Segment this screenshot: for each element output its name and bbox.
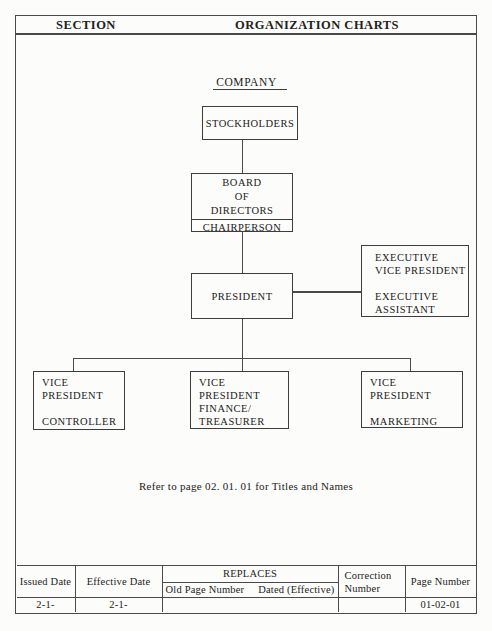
correction-label-line: Number bbox=[345, 582, 405, 595]
org-box-vp-controller: VICE PRESIDENT CONTROLLER bbox=[33, 371, 125, 430]
org-box-line: VICE PRESIDENT bbox=[375, 264, 466, 277]
org-box-line: VICE bbox=[199, 376, 286, 389]
replaces-title-row: REPLACES bbox=[163, 566, 338, 583]
correction-label-line: Correction bbox=[345, 569, 405, 582]
connector-stub-left bbox=[73, 358, 75, 372]
replaces-subheader-row: Old Page Number Dated (Effective) bbox=[163, 583, 338, 597]
org-box-line: ASSISTANT bbox=[375, 303, 466, 316]
org-box-executive-vp-assistant: EXECUTIVE VICE PRESIDENT EXECUTIVE ASSIS… bbox=[361, 245, 469, 317]
board-top-section: BOARD OF DIRECTORS bbox=[192, 174, 292, 220]
replaces-header: REPLACES Old Page Number Dated (Effectiv… bbox=[162, 566, 338, 598]
org-box-line: VICE bbox=[370, 376, 460, 389]
org-box-line bbox=[42, 402, 122, 415]
page-title: ORGANIZATION CHARTS bbox=[157, 18, 477, 33]
connector-stockholders-board bbox=[242, 140, 244, 173]
org-box-president: PRESIDENT bbox=[191, 273, 293, 319]
document-page: SECTION ORGANIZATION CHARTS COMPANY STOC… bbox=[0, 0, 492, 631]
org-box-line: CHAIRPERSON bbox=[203, 222, 281, 233]
org-box-label: PRESIDENT bbox=[211, 291, 272, 302]
org-box-line: FINANCE/ bbox=[199, 402, 286, 415]
connector-president-executive bbox=[293, 291, 361, 293]
footer-table: Issued Date Effective Date REPLACES Old … bbox=[17, 565, 476, 612]
org-box-stockholders: STOCKHOLDERS bbox=[202, 106, 298, 140]
old-page-number-label: Old Page Number bbox=[166, 584, 245, 595]
org-box-vp-finance-treasurer: VICE PRESIDENT FINANCE/ TREASURER bbox=[190, 371, 289, 429]
effective-date-label: Effective Date bbox=[87, 576, 151, 587]
org-box-line: EXECUTIVE bbox=[375, 251, 466, 264]
page-number-value: 01-02-01 bbox=[405, 598, 476, 613]
issued-date-label: Issued Date bbox=[20, 576, 71, 587]
org-box-line: EXECUTIVE bbox=[375, 290, 466, 303]
org-box-line: TREASURER bbox=[199, 415, 286, 428]
connector-board-president bbox=[242, 232, 244, 273]
issued-date-value: 2-1- bbox=[17, 598, 75, 613]
page-number-label: Page Number bbox=[411, 576, 471, 587]
correction-number-header: Correction Number bbox=[338, 566, 405, 598]
org-box-vp-marketing: VICE PRESIDENT MARKETING bbox=[361, 371, 463, 428]
issued-date-header: Issued Date bbox=[17, 566, 75, 598]
org-box-line bbox=[375, 277, 466, 290]
org-box-line: CONTROLLER bbox=[42, 415, 122, 428]
connector-stub-middle bbox=[242, 358, 244, 372]
correction-number-value bbox=[338, 598, 405, 613]
org-box-line bbox=[370, 402, 460, 415]
replaces-label: REPLACES bbox=[223, 568, 277, 579]
header-divider-line bbox=[15, 33, 476, 35]
org-box-line: MARKETING bbox=[370, 415, 460, 428]
chart-title: COMPANY bbox=[196, 76, 304, 88]
org-box-line: PRESIDENT bbox=[199, 389, 286, 402]
org-box-line: VICE bbox=[42, 376, 122, 389]
replaces-value bbox=[162, 598, 338, 613]
page-number-header: Page Number bbox=[405, 566, 476, 598]
connector-stub-right bbox=[410, 358, 412, 372]
section-label: SECTION bbox=[15, 18, 157, 33]
chart-title-text: COMPANY bbox=[213, 76, 287, 90]
org-box-line: BOARD bbox=[192, 176, 292, 190]
org-box-line: PRESIDENT bbox=[370, 389, 460, 402]
org-box-line: OF bbox=[192, 190, 292, 204]
org-box-line: PRESIDENT bbox=[42, 389, 122, 402]
connector-president-down bbox=[242, 319, 244, 358]
org-box-label: STOCKHOLDERS bbox=[206, 118, 295, 129]
reference-note: Refer to page 02. 01. 01 for Titles and … bbox=[15, 480, 477, 492]
org-box-line: DIRECTORS bbox=[192, 204, 292, 218]
effective-date-header: Effective Date bbox=[75, 566, 162, 598]
org-box-board-of-directors: BOARD OF DIRECTORS CHAIRPERSON bbox=[191, 173, 293, 232]
dated-effective-label: Dated (Effective) bbox=[258, 584, 334, 595]
effective-date-value: 2-1- bbox=[75, 598, 162, 613]
